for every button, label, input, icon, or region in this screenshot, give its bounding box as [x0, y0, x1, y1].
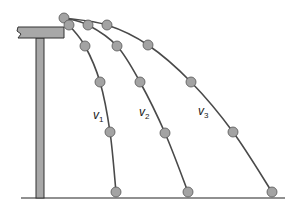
ball-position-dot	[183, 187, 193, 197]
ball-position-dot	[83, 20, 93, 30]
ball-position-dot	[160, 128, 170, 138]
trajectory-v3	[64, 18, 272, 192]
ball-position-dot	[105, 127, 115, 137]
ball-position-dot	[143, 40, 153, 50]
ball-position-dot	[186, 77, 196, 87]
projectile-diagram: v1v2v3	[0, 0, 300, 211]
trajectories	[64, 18, 272, 192]
ball-position-dot	[111, 187, 121, 197]
table-leg	[36, 38, 44, 198]
velocity-label-v1: v1	[93, 108, 104, 124]
ball-position-dot	[267, 187, 277, 197]
ball-position-dot	[80, 41, 90, 51]
ball-position-dot	[64, 20, 74, 30]
ball-position-dot	[112, 41, 122, 51]
ball-position-dot	[102, 20, 112, 30]
table-top	[17, 27, 64, 38]
velocity-labels: v1v2v3	[93, 104, 209, 124]
ball-position-dot	[228, 127, 238, 137]
trajectory-dots	[59, 13, 277, 197]
velocity-label-v3: v3	[198, 104, 209, 120]
ball-position-dot	[135, 77, 145, 87]
velocity-label-v2: v2	[139, 105, 150, 121]
ball-position-dot	[95, 77, 105, 87]
